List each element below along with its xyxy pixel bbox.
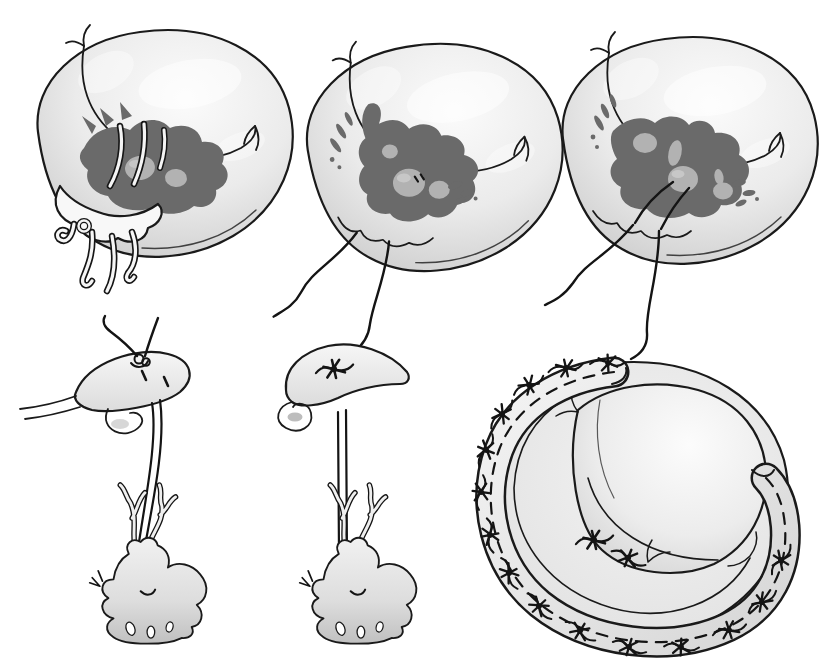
panel-neochord-knot-tying bbox=[20, 316, 206, 644]
papillary-muscle bbox=[300, 485, 417, 644]
panel-valve-sutures-to-papillary bbox=[545, 32, 818, 359]
figure-mitral-valve-repair bbox=[0, 0, 826, 664]
leaflet-cross-section bbox=[20, 352, 190, 433]
panel-neochord-completed bbox=[278, 344, 416, 643]
panel-annuloplasty-band bbox=[473, 352, 797, 659]
papillary-muscle bbox=[90, 485, 207, 644]
anterior-leaflet-dome bbox=[573, 384, 766, 572]
leaflet-cross-section bbox=[278, 344, 409, 430]
illustration-canvas bbox=[0, 0, 826, 664]
panel-valve-sutures-placed bbox=[264, 35, 569, 355]
panel-valve-flail-segment bbox=[37, 25, 292, 291]
